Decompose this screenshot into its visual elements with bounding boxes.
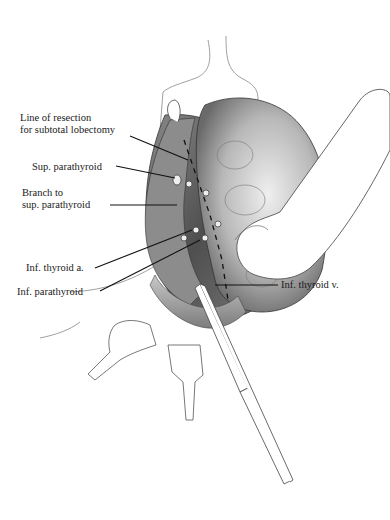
label-inf-thyroid-vein: Inf. thyroid v. <box>281 279 339 291</box>
label-branch-to-sup-parathyroid: Branch to sup. parathyroid <box>22 187 90 211</box>
label-line-of-resection-l1: Line of resection <box>20 112 115 124</box>
label-line-of-resection-l2: for subtotal lobectomy <box>20 124 115 136</box>
label-inf-thyroid-artery: Inf. thyroid a. <box>26 262 84 274</box>
label-sup-parathyroid: Sup. parathyroid <box>32 161 102 173</box>
label-line-of-resection: Line of resection for subtotal lobectomy <box>20 112 115 136</box>
label-branch-l2: sup. parathyroid <box>22 199 90 211</box>
label-branch-l1: Branch to <box>22 187 90 199</box>
lower-retractors <box>88 320 203 420</box>
label-inf-parathyroid: Inf. parathyroid <box>17 286 83 298</box>
surgical-illustration <box>0 0 390 520</box>
